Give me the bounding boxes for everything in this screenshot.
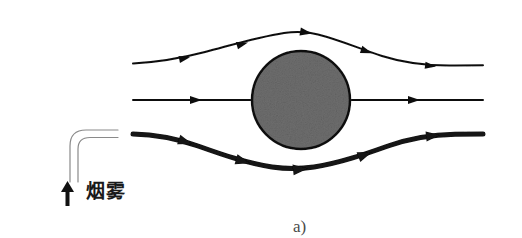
cylinder-obstacle	[252, 51, 350, 149]
flow-diagram-svg	[0, 0, 522, 238]
smoke-direction-arrow	[61, 181, 74, 206]
panel-caption: a)	[293, 218, 306, 235]
figure-root: 烟雾 a)	[0, 0, 522, 238]
smoke-label: 烟雾	[86, 182, 126, 201]
smoke-nozzle-tube	[70, 130, 118, 182]
